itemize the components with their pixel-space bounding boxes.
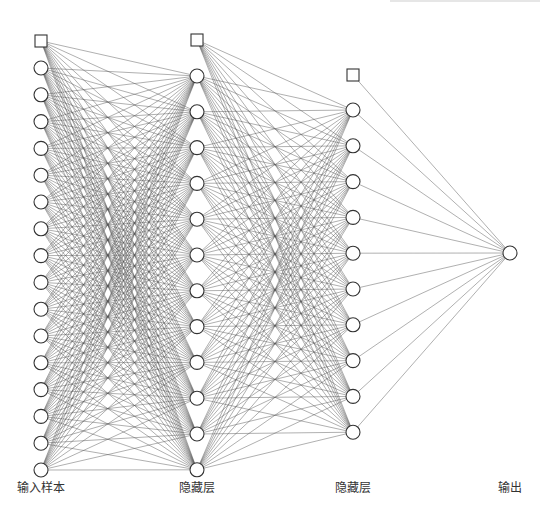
connection-edge bbox=[41, 41, 197, 76]
connection-edge bbox=[197, 110, 353, 291]
hidden1-bias-node bbox=[191, 34, 203, 46]
input-neuron-node bbox=[34, 383, 48, 397]
hidden1-neuron-node bbox=[190, 105, 204, 119]
connection-edge bbox=[197, 110, 353, 183]
network-diagram bbox=[0, 0, 549, 528]
connection-edge bbox=[353, 110, 510, 253]
connection-edge bbox=[197, 146, 353, 470]
output-neuron-node bbox=[503, 246, 517, 260]
input-neuron-node bbox=[34, 195, 48, 209]
connection-edge bbox=[353, 253, 510, 432]
input-neuron-node bbox=[34, 115, 48, 129]
input-neuron-node bbox=[34, 275, 48, 289]
connection-edge bbox=[197, 325, 353, 470]
connection-edge bbox=[41, 112, 197, 363]
hidden1-neuron-node bbox=[190, 427, 204, 441]
input-layer-label: 输入样本 bbox=[17, 478, 65, 495]
hidden-layer-1-label: 隐藏层 bbox=[179, 478, 215, 495]
hidden1-neuron-node bbox=[190, 355, 204, 369]
hidden1-neuron-node bbox=[190, 141, 204, 155]
hidden2-neuron-node bbox=[346, 246, 360, 260]
connection-edge bbox=[41, 76, 197, 416]
input-neuron-node bbox=[34, 61, 48, 75]
input-neuron-node bbox=[34, 463, 48, 477]
connection-edge bbox=[353, 146, 510, 253]
connection-edge bbox=[353, 182, 510, 253]
input-neuron-node bbox=[34, 356, 48, 370]
connection-edge bbox=[353, 253, 510, 396]
hidden2-neuron-node bbox=[346, 210, 360, 224]
connection-edge bbox=[197, 110, 353, 434]
hidden1-neuron-node bbox=[190, 69, 204, 83]
hidden1-neuron-node bbox=[190, 176, 204, 190]
connection-edge bbox=[197, 110, 353, 112]
output-layer-label: 输出 bbox=[498, 478, 522, 495]
hidden2-neuron-node bbox=[346, 389, 360, 403]
connection-edge bbox=[41, 148, 197, 256]
hidden-layer-2-label: 隐藏层 bbox=[335, 478, 371, 495]
connection-edge bbox=[41, 443, 197, 470]
connection-edge bbox=[197, 110, 353, 362]
hidden1-neuron-node bbox=[190, 463, 204, 477]
connection-edge bbox=[197, 396, 353, 469]
hidden2-neuron-node bbox=[346, 139, 360, 153]
connection-edge bbox=[353, 253, 510, 361]
hidden1-neuron-node bbox=[190, 248, 204, 262]
input-neuron-node bbox=[34, 168, 48, 182]
input-bias-node bbox=[35, 35, 47, 47]
hidden2-neuron-node bbox=[346, 354, 360, 368]
hidden1-neuron-node bbox=[190, 284, 204, 298]
input-neuron-node bbox=[34, 302, 48, 316]
connection-edges bbox=[41, 40, 510, 470]
connection-edge bbox=[353, 253, 510, 289]
input-neuron-node bbox=[34, 436, 48, 450]
input-neuron-node bbox=[34, 329, 48, 343]
hidden2-bias-node bbox=[347, 69, 359, 81]
connection-edge bbox=[197, 432, 353, 470]
connection-edge bbox=[41, 148, 197, 283]
connection-edge bbox=[41, 434, 197, 470]
input-neuron-node bbox=[34, 141, 48, 155]
input-neuron-node bbox=[34, 409, 48, 423]
connection-edge bbox=[197, 110, 353, 255]
hidden1-neuron-node bbox=[190, 391, 204, 405]
input-neuron-node bbox=[34, 88, 48, 102]
connection-edge bbox=[197, 110, 353, 327]
connection-edge bbox=[197, 253, 353, 470]
connection-edge bbox=[353, 217, 510, 253]
hidden1-neuron-node bbox=[190, 212, 204, 226]
connection-edge bbox=[353, 253, 510, 325]
input-neuron-node bbox=[34, 249, 48, 263]
connection-edge bbox=[197, 110, 353, 398]
hidden2-neuron-node bbox=[346, 318, 360, 332]
input-neuron-node bbox=[34, 222, 48, 236]
hidden2-neuron-node bbox=[346, 282, 360, 296]
hidden1-neuron-node bbox=[190, 320, 204, 334]
connection-edge bbox=[197, 182, 353, 470]
hidden2-neuron-node bbox=[346, 103, 360, 117]
connection-edge bbox=[353, 75, 510, 253]
connection-edge bbox=[197, 110, 353, 470]
hidden2-neuron-node bbox=[346, 425, 360, 439]
hidden2-neuron-node bbox=[346, 175, 360, 189]
